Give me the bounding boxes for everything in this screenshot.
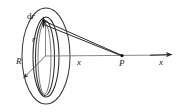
label-field-point-P: P — [119, 59, 125, 68]
ring-top-marker — [43, 20, 46, 23]
slant-line-lower — [45, 25, 122, 56]
axis-arrow-head — [150, 55, 172, 56]
label-axis-distance-x: x — [77, 58, 81, 67]
label-axis-name-x: x — [159, 58, 163, 67]
label-dr-r: r — [32, 11, 36, 21]
inner-ring-extra-ellipse — [38, 23, 51, 94]
label-inner-radius-r: r — [32, 35, 36, 44]
label-outer-radius-R: R — [16, 57, 22, 66]
physics-diagram-figure: dr r R x P x — [0, 0, 176, 112]
field-point-marker — [120, 54, 123, 57]
slant-line-upper — [44, 21, 122, 56]
label-dr: dr — [27, 12, 35, 21]
